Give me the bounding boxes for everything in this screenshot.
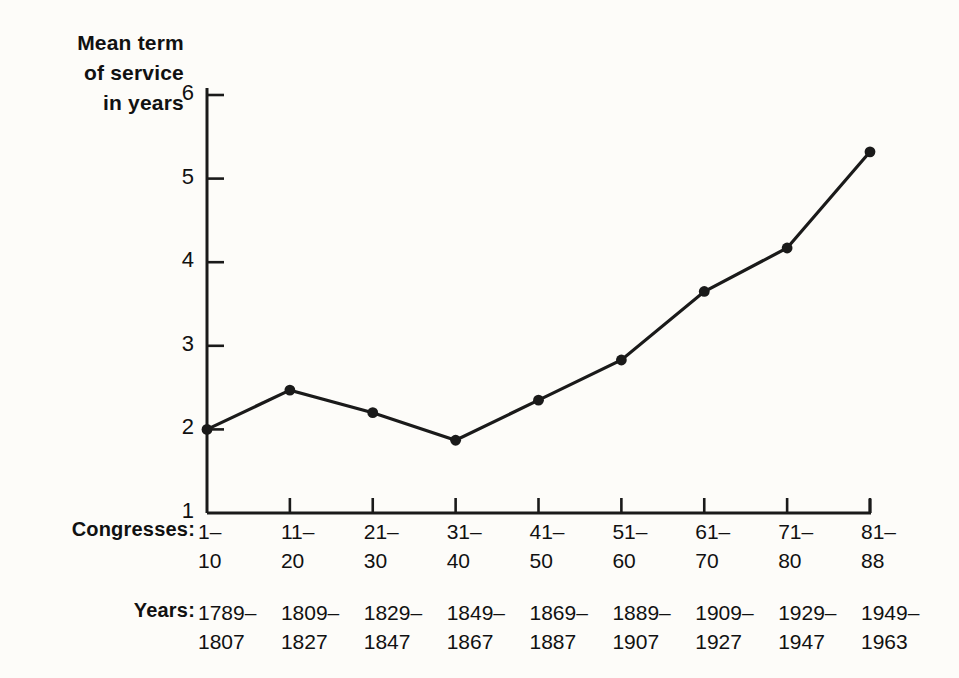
data-point-marker — [533, 395, 544, 406]
data-point-marker — [616, 355, 627, 366]
year-tick-label: 1869– 1887 — [530, 599, 588, 657]
x-tick-marks — [290, 498, 870, 513]
y-tick-label: 3 — [160, 333, 194, 355]
congress-tick-label: 51– 60 — [612, 518, 647, 576]
year-tick-label: 1789– 1807 — [198, 599, 256, 657]
y-tick-label: 2 — [160, 416, 194, 438]
year-tick-label: 1849– 1867 — [447, 599, 505, 657]
y-tick-marks — [207, 95, 224, 429]
year-tick-label: 1889– 1907 — [612, 599, 670, 657]
data-point-marker — [450, 435, 461, 446]
y-tick-label: 5 — [160, 166, 194, 188]
y-tick-label: 4 — [160, 249, 194, 271]
year-tick-label: 1949– 1963 — [861, 599, 919, 657]
y-tick-label: 6 — [160, 82, 194, 104]
congress-tick-label: 61– 70 — [695, 518, 730, 576]
year-tick-label: 1829– 1847 — [364, 599, 422, 657]
data-point-marker — [699, 286, 710, 297]
year-tick-label: 1909– 1927 — [695, 599, 753, 657]
data-point-marker — [782, 243, 793, 254]
congresses-row-label: Congresses: — [40, 518, 195, 541]
congress-tick-label: 41– 50 — [530, 518, 565, 576]
congress-tick-label: 81– 88 — [861, 518, 896, 576]
years-row-label: Years: — [40, 599, 195, 622]
congress-tick-label: 71– 80 — [778, 518, 813, 576]
plot-area — [0, 0, 959, 678]
data-point-marker — [865, 146, 876, 157]
data-point-markers — [202, 146, 876, 445]
congress-tick-label: 21– 30 — [364, 518, 399, 576]
chart-page: Mean term of service in years 123456 Con… — [0, 0, 959, 678]
data-point-marker — [202, 424, 213, 435]
congress-tick-label: 11– 20 — [281, 518, 314, 576]
congress-tick-label: 31– 40 — [447, 518, 482, 576]
data-point-marker — [284, 385, 295, 396]
year-tick-label: 1929– 1947 — [778, 599, 836, 657]
data-point-marker — [367, 407, 378, 418]
congress-tick-label: 1– 10 — [198, 518, 221, 576]
year-tick-label: 1809– 1827 — [281, 599, 339, 657]
